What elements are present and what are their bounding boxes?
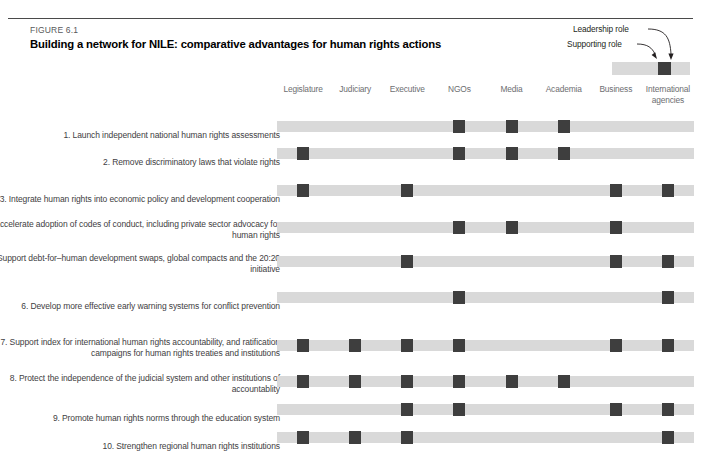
- leadership-cell: [401, 255, 413, 268]
- leadership-cell: [610, 403, 622, 416]
- leadership-cell: [349, 339, 361, 352]
- row-bar: [277, 404, 694, 415]
- row-label: 10. Strengthen regional human rights ins…: [0, 441, 280, 452]
- legend-arrow-icon: [560, 24, 695, 79]
- leadership-cell: [506, 221, 518, 234]
- leadership-cell: [453, 339, 465, 352]
- leadership-cell: [401, 431, 413, 444]
- row-label: 3. Integrate human rights into economic …: [0, 194, 280, 205]
- row-bar: [277, 185, 694, 196]
- figure-number: FIGURE 6.1: [30, 25, 510, 36]
- column-header-legislature: Legislature: [273, 84, 333, 95]
- comparative-advantages-matrix: LegislatureJudiciaryExecutiveNGOsMediaAc…: [0, 84, 701, 444]
- leadership-cell: [297, 339, 309, 352]
- figure-title: Building a network for NILE: comparative…: [30, 37, 510, 52]
- leadership-cell: [453, 403, 465, 416]
- row-label: 9. Promote human rights norms through th…: [0, 413, 280, 424]
- leadership-cell: [662, 291, 674, 304]
- leadership-cell: [558, 120, 570, 133]
- leadership-cell: [610, 221, 622, 234]
- leadership-cell: [297, 375, 309, 388]
- leadership-cell: [297, 184, 309, 197]
- row-bar: [277, 432, 694, 443]
- leadership-cell: [506, 120, 518, 133]
- row-bar: [277, 222, 694, 233]
- leadership-cell: [506, 375, 518, 388]
- leadership-cell: [453, 221, 465, 234]
- row-label: 6. Develop more effective early warning …: [0, 301, 280, 312]
- row-bar: [277, 121, 694, 132]
- leadership-cell: [453, 120, 465, 133]
- legend: Leadership role Supporting role: [560, 24, 695, 79]
- leadership-cell: [558, 375, 570, 388]
- leadership-cell: [610, 255, 622, 268]
- row-label: 7. Support index for international human…: [0, 337, 280, 360]
- row-bar: [277, 340, 694, 351]
- leadership-cell: [401, 184, 413, 197]
- header-rule: [8, 18, 693, 19]
- leadership-cell: [401, 375, 413, 388]
- leadership-cell: [349, 375, 361, 388]
- leadership-cell: [349, 431, 361, 444]
- leadership-cell: [297, 431, 309, 444]
- leadership-cell: [453, 147, 465, 160]
- leadership-cell: [610, 339, 622, 352]
- column-header-judiciary: Judiciary: [325, 84, 385, 95]
- leadership-cell: [662, 184, 674, 197]
- column-headers: LegislatureJudiciaryExecutiveNGOsMediaAc…: [0, 84, 701, 110]
- column-header-media: Media: [482, 84, 542, 95]
- leadership-cell: [662, 339, 674, 352]
- row-bar: [277, 292, 694, 303]
- column-header-executive: Executive: [377, 84, 437, 95]
- leadership-cell: [453, 291, 465, 304]
- leadership-cell: [506, 147, 518, 160]
- leadership-cell: [662, 403, 674, 416]
- column-header-business: Business: [586, 84, 646, 95]
- row-label: 1. Launch independent national human rig…: [0, 130, 280, 141]
- leadership-cell: [297, 147, 309, 160]
- row-bar: [277, 148, 694, 159]
- figure-header: FIGURE 6.1 Building a network for NILE: …: [30, 25, 510, 52]
- column-header-ngos: NGOs: [429, 84, 489, 95]
- row-bar: [277, 376, 694, 387]
- leadership-cell: [401, 403, 413, 416]
- column-header-academia: Academia: [534, 84, 594, 95]
- column-header-international-agencies: International agencies: [638, 84, 698, 105]
- row-label: 2. Remove discriminatory laws that viola…: [0, 157, 280, 168]
- row-bar: [277, 256, 694, 267]
- leadership-cell: [401, 339, 413, 352]
- leadership-cell: [453, 375, 465, 388]
- leadership-cell: [662, 431, 674, 444]
- leadership-cell: [610, 184, 622, 197]
- row-label: 5. Support debt-for–human development sw…: [0, 253, 280, 276]
- leadership-cell: [662, 255, 674, 268]
- row-label: 8. Protect the independence of the judic…: [0, 373, 280, 396]
- row-label: 4. Accelerate adoption of codes of condu…: [0, 219, 280, 242]
- leadership-cell: [558, 147, 570, 160]
